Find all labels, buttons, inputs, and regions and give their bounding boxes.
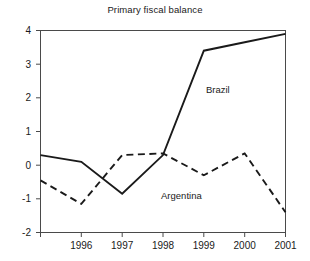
x-tick-label-2000: 2000 <box>234 240 257 251</box>
chart-container: Primary fiscal balance 4 3 2 1 0 -1 -2 <box>0 0 310 261</box>
y-tick-label-3: 3 <box>25 59 31 70</box>
y-tick-label-1: 1 <box>25 126 31 137</box>
series-line-brazil <box>41 34 286 194</box>
y-tick-label-minus1: -1 <box>22 193 31 204</box>
x-axis-ticks <box>41 233 286 238</box>
plot-frame <box>41 31 286 233</box>
x-tick-label-1997: 1997 <box>111 240 134 251</box>
y-axis-ticks <box>36 31 41 233</box>
series-label-argentina: Argentina <box>161 190 202 201</box>
x-tick-label-1998: 1998 <box>152 240 175 251</box>
x-tick-label-1999: 1999 <box>193 240 216 251</box>
y-tick-label-2: 2 <box>25 92 31 103</box>
line-chart-plot: 4 3 2 1 0 -1 -2 1996 1997 1998 1999 2000… <box>0 0 310 261</box>
y-tick-label-minus2: -2 <box>22 227 31 238</box>
y-tick-label-4: 4 <box>25 25 31 36</box>
series-line-argentina <box>41 153 286 212</box>
y-tick-label-0: 0 <box>25 160 31 171</box>
x-tick-label-1996: 1996 <box>70 240 93 251</box>
x-tick-label-2001: 2001 <box>274 240 297 251</box>
series-label-brazil: Brazil <box>206 84 230 95</box>
